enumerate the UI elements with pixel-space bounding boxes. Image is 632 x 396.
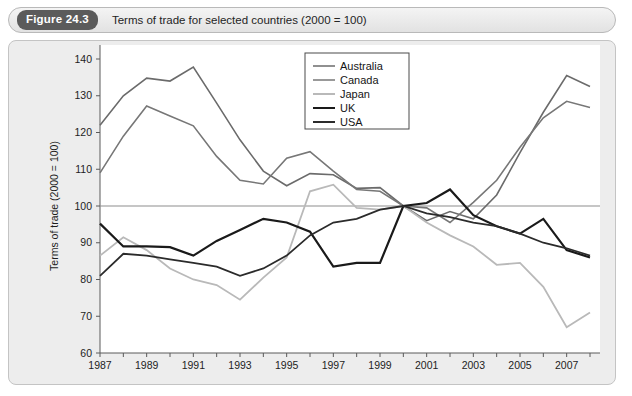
- y-axis-tick-label: 80: [80, 273, 92, 285]
- y-axis-tick-label: 70: [80, 310, 92, 322]
- y-axis-title: Terms of trade (2000 = 100): [48, 141, 60, 271]
- x-axis-tick-label: 1993: [228, 359, 252, 371]
- y-axis-tick-label: 60: [80, 347, 92, 359]
- y-axis-tick-label: 140: [74, 53, 92, 65]
- y-axis-tick-label: 90: [80, 236, 92, 248]
- terms-of-trade-line-chart: 6070809010011012013014019871989199119931…: [9, 41, 615, 384]
- x-axis-tick-label: 1987: [88, 359, 112, 371]
- x-axis-tick-label: 1995: [275, 359, 299, 371]
- figure-caption-text: Terms of trade for selected countries (2…: [112, 14, 367, 26]
- x-axis-tick-label: 2003: [462, 359, 486, 371]
- legend-label-usa: USA: [340, 116, 363, 128]
- legend-label-canada: Canada: [340, 74, 379, 86]
- x-axis-tick-label: 1997: [322, 359, 346, 371]
- y-axis-tick-label: 110: [75, 163, 92, 175]
- x-axis-tick-label: 2007: [555, 359, 579, 371]
- legend-label-japan: Japan: [340, 88, 370, 100]
- y-axis-tick-label: 130: [74, 89, 92, 101]
- y-axis-tick-label: 100: [74, 200, 92, 212]
- figure-number-badge: Figure 24.3: [17, 10, 98, 30]
- legend-label-australia: Australia: [340, 60, 384, 72]
- figure-caption-bar: Figure 24.3 Terms of trade for selected …: [8, 7, 616, 33]
- y-axis-tick-label: 120: [74, 126, 92, 138]
- figure-container: Figure 24.3 Terms of trade for selected …: [0, 0, 632, 396]
- x-axis-tick-label: 1999: [368, 359, 392, 371]
- legend-label-uk: UK: [340, 102, 356, 114]
- chart-panel: 6070809010011012013014019871989199119931…: [8, 40, 616, 385]
- x-axis-tick-label: 1989: [135, 359, 159, 371]
- x-axis-tick-label: 2001: [415, 359, 439, 371]
- x-axis-tick-label: 1991: [182, 359, 206, 371]
- x-axis-tick-label: 2005: [508, 359, 532, 371]
